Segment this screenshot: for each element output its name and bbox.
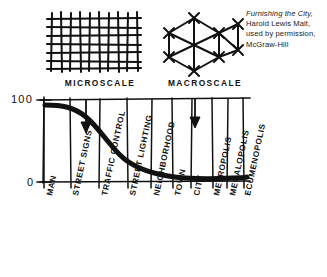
source-credit: Furnishing the City, Harold Lewis Malt, …: [246, 9, 326, 50]
category-label-street-signs: STREET SIGNS: [71, 129, 94, 197]
gridline-100: [40, 98, 250, 100]
gridline-city: [191, 99, 192, 188]
ytick-label-100: 100: [11, 93, 33, 105]
credit-line-3: used by permission,: [246, 29, 326, 39]
macroscale-lattice-diagram: [164, 13, 243, 76]
microscale-grid-diagram: [47, 12, 141, 72]
category-label-traffic-control: TRAFFIC CONTROL: [100, 110, 127, 197]
credit-line-4: McGraw-Hill: [246, 40, 326, 50]
gridline-traffic-control: [99, 99, 100, 188]
gridline-street-signs: [70, 98, 71, 188]
ytick-label-0: 0: [27, 176, 33, 188]
credit-line-1: Furnishing the City,: [246, 9, 326, 19]
gridline-street-lighting: [127, 98, 128, 188]
category-labels: MAN STREET SIGNS TRAFFIC CONTROL STREET …: [45, 110, 267, 197]
category-label-man: MAN: [45, 175, 58, 197]
macroscale-label: MACROSCALE: [168, 78, 242, 88]
credit-line-2: Harold Lewis Malt,: [246, 19, 326, 29]
category-label-street-lighting: STREET LIGHTING: [128, 114, 154, 197]
gridline-metropolis: [212, 98, 213, 188]
figure-container: MICROSCALE MACROSCALE 100 0: [0, 0, 327, 277]
microscale-label: MICROSCALE: [65, 78, 135, 88]
